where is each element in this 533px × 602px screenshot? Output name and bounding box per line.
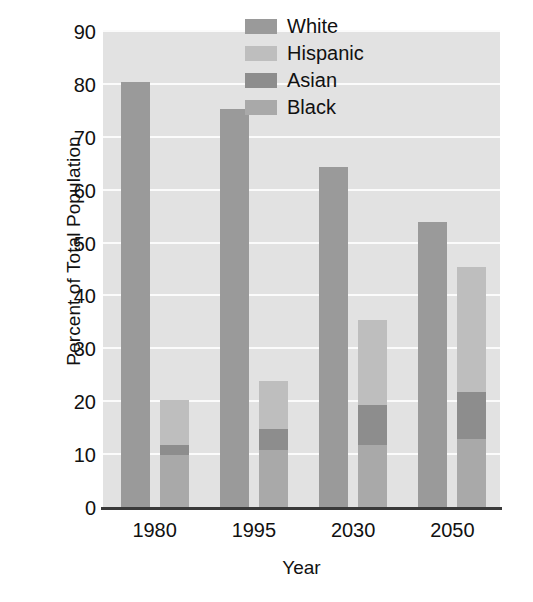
bar-segment-hispanic-2030 <box>358 320 387 405</box>
x-tick-label-1995: 1995 <box>232 519 277 542</box>
x-tick-label-2050: 2050 <box>430 519 475 542</box>
y-axis-tick-labels: 0102030405060708090 <box>44 0 96 602</box>
legend-item-hispanic: Hispanic <box>245 40 395 66</box>
bar-white-1995 <box>220 109 249 508</box>
x-axis-line <box>101 507 502 510</box>
bar-stacked-1995 <box>259 381 288 508</box>
y-tick-label: 50 <box>50 234 96 254</box>
bar-segment-black-1980 <box>160 455 189 508</box>
bar-segment-hispanic-1980 <box>160 400 189 445</box>
legend-swatch-hispanic-icon <box>245 46 277 61</box>
bar-white-2030 <box>319 167 348 508</box>
x-tick-label-1980: 1980 <box>132 519 177 542</box>
gridline <box>103 189 500 191</box>
bar-white-2050 <box>418 222 447 508</box>
legend-swatch-black-icon <box>245 100 277 115</box>
x-axis-tick-labels: 1980199520302050 <box>103 519 500 549</box>
bar-chart-figure: Percent of Total Population 010203040506… <box>0 0 533 602</box>
y-tick-label: 60 <box>50 181 96 201</box>
legend-label: Hispanic <box>287 43 364 63</box>
legend-item-asian: Asian <box>245 67 395 93</box>
bar-segment-black-2030 <box>358 445 387 508</box>
bar-segment-black-1995 <box>259 450 288 508</box>
legend-label: Asian <box>287 70 337 90</box>
bar-segment-hispanic-1995 <box>259 381 288 429</box>
bar-white-1980 <box>121 82 150 508</box>
x-axis-title: Year <box>103 557 500 579</box>
y-tick-label: 90 <box>50 22 96 42</box>
y-tick-label: 0 <box>50 498 96 518</box>
bar-stacked-1980 <box>160 400 189 508</box>
y-tick-label: 30 <box>50 339 96 359</box>
bar-segment-asian-2030 <box>358 405 387 445</box>
legend-label: Black <box>287 97 336 117</box>
bar-segment-hispanic-2050 <box>457 267 486 391</box>
legend-label: White <box>287 16 338 36</box>
gridline <box>103 136 500 138</box>
x-tick-label-2030: 2030 <box>331 519 376 542</box>
y-tick-label: 70 <box>50 128 96 148</box>
legend-item-black: Black <box>245 94 395 120</box>
bar-segment-black-2050 <box>457 439 486 508</box>
y-tick-label: 10 <box>50 445 96 465</box>
chart-legend: WhiteHispanicAsianBlack <box>245 13 395 121</box>
bar-segment-asian-1995 <box>259 429 288 450</box>
y-tick-label: 80 <box>50 75 96 95</box>
legend-item-white: White <box>245 13 395 39</box>
legend-swatch-white-icon <box>245 19 277 34</box>
bar-stacked-2050 <box>457 267 486 508</box>
legend-swatch-asian-icon <box>245 73 277 88</box>
bar-segment-asian-1980 <box>160 445 189 456</box>
y-tick-label: 20 <box>50 392 96 412</box>
bar-stacked-2030 <box>358 320 387 508</box>
bar-segment-asian-2050 <box>457 392 486 440</box>
y-tick-label: 40 <box>50 286 96 306</box>
